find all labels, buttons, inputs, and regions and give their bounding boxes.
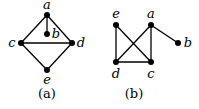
edge-a-b bbox=[151, 25, 178, 43]
vertex-a bbox=[148, 22, 154, 28]
graph-figure-a: abcde(a) bbox=[8, 0, 85, 101]
vertex-label-e: e bbox=[112, 6, 120, 21]
vertex-label-d: d bbox=[112, 66, 120, 81]
vertex-label-e: e bbox=[43, 72, 51, 87]
vertex-b bbox=[175, 40, 181, 46]
vertex-label-d: d bbox=[77, 35, 85, 50]
vertex-b bbox=[44, 31, 50, 37]
vertex-label-a: a bbox=[43, 0, 51, 12]
figure-caption: (a) bbox=[38, 86, 56, 101]
edge-c-e bbox=[21, 43, 47, 70]
graph-figure-b: eabdc(b) bbox=[112, 6, 192, 101]
vertex-d bbox=[113, 59, 119, 65]
vertex-d bbox=[69, 40, 75, 46]
vertex-e bbox=[113, 22, 119, 28]
edge-d-e bbox=[47, 43, 72, 70]
vertex-c bbox=[18, 40, 24, 46]
edge-a-c bbox=[21, 15, 47, 43]
vertex-label-a: a bbox=[147, 6, 155, 21]
vertex-label-b: b bbox=[52, 26, 60, 41]
vertex-label-c: c bbox=[147, 66, 155, 81]
vertex-a bbox=[44, 12, 50, 18]
vertex-c bbox=[148, 59, 154, 65]
vertex-label-c: c bbox=[8, 35, 16, 50]
figure-caption: (b) bbox=[125, 86, 143, 101]
graph-diagram: abcde(a)eabdc(b) bbox=[0, 0, 199, 109]
vertex-label-b: b bbox=[184, 35, 192, 50]
